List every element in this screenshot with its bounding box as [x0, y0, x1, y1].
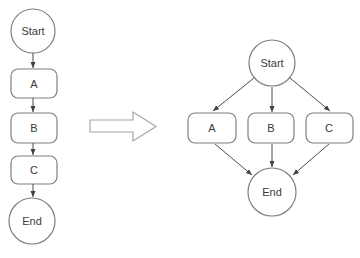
right-branch-c-label: C — [325, 122, 333, 134]
flow-transformation-diagram: Start A B C End Start A B C End — [0, 0, 360, 258]
right-connector-c-end — [293, 144, 329, 175]
left-start-label: Start — [21, 25, 44, 37]
right-branch-a-label: A — [208, 122, 216, 134]
right-connector-start-a — [213, 78, 254, 111]
right-branch-b-label: B — [267, 122, 274, 134]
right-start-label: Start — [260, 57, 283, 69]
left-step-a-label: A — [30, 78, 38, 90]
left-step-b-label: B — [30, 122, 37, 134]
transform-right-arrow-icon — [90, 112, 156, 141]
left-sequential-flow: Start A B C End — [9, 9, 57, 244]
left-end-label: End — [22, 215, 42, 227]
right-connector-a-end — [215, 144, 252, 175]
left-step-c-label: C — [30, 164, 38, 176]
right-end-label: End — [262, 186, 282, 198]
right-parallel-flow: Start A B C End — [188, 40, 353, 216]
right-connector-start-c — [290, 78, 330, 111]
